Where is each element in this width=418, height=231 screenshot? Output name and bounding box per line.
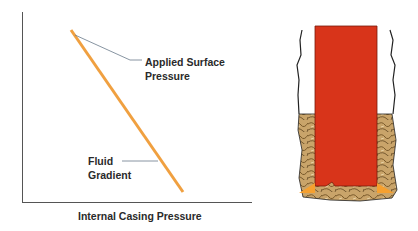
right-borehole-wall [390, 30, 395, 114]
left-borehole-wall [297, 30, 302, 114]
casing [315, 26, 377, 186]
wellbore-canvas [0, 0, 418, 231]
